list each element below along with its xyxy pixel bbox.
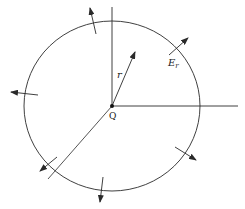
diagonal-axis [48, 106, 112, 179]
radius-label: r [117, 69, 123, 80]
field-label-subscript: r [175, 62, 179, 70]
field-arrow-upper-right-icon [169, 38, 188, 55]
radius-vector-arrow [112, 52, 135, 106]
field-arrows [11, 8, 196, 202]
field-arrow-lower-left-icon [40, 157, 57, 171]
field-label: Er [167, 57, 179, 70]
field-arrow-top-icon [90, 8, 96, 34]
field-arrow-bottom-icon [100, 177, 103, 202]
gauss-surface-diagram: r Q Er [0, 0, 245, 209]
charge-point [110, 104, 114, 108]
charge-label: Q [109, 111, 116, 121]
field-arrow-lower-right-icon [175, 147, 196, 160]
